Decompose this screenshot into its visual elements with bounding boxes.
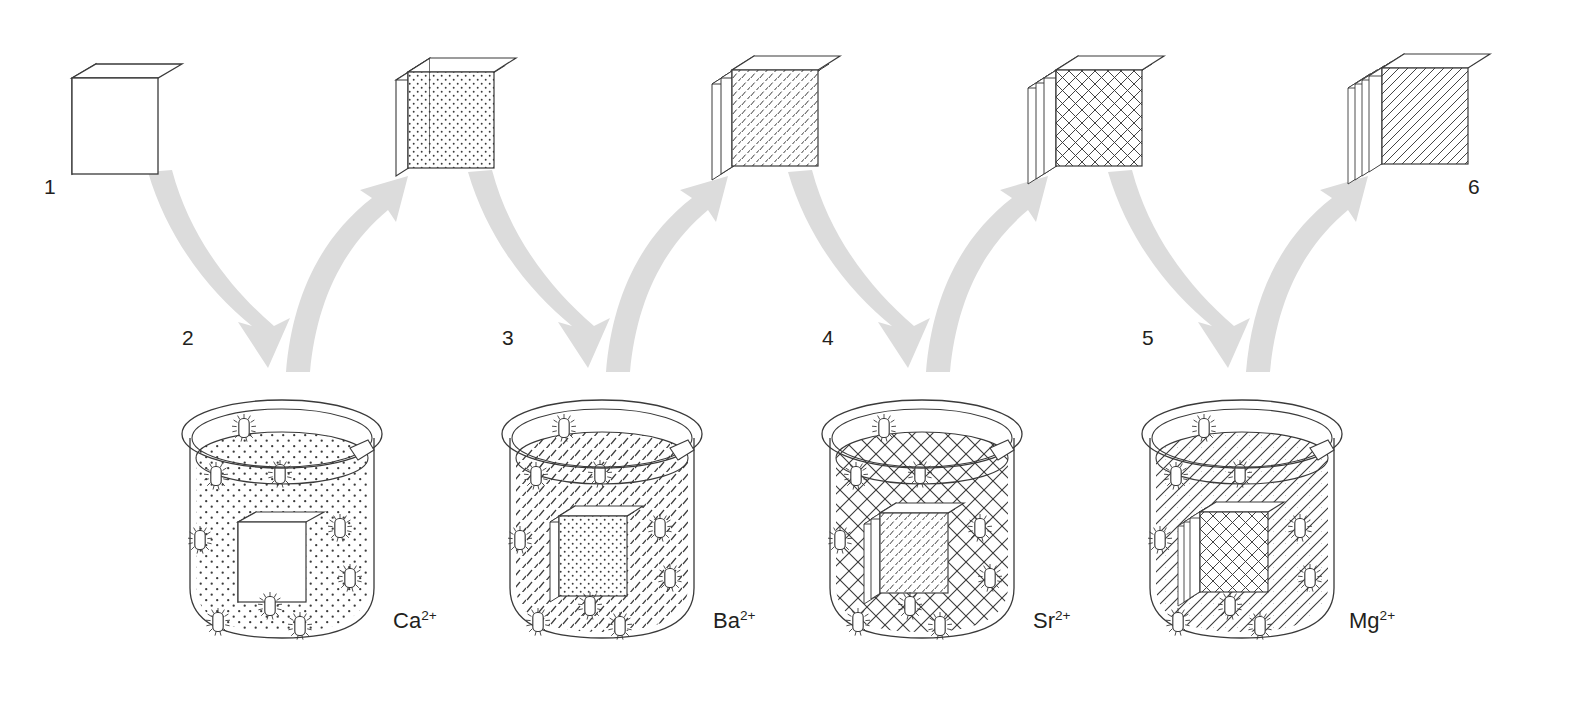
ion-particle <box>1192 414 1216 442</box>
plate-stack-1 <box>72 64 182 174</box>
ion-particle <box>872 414 896 442</box>
arrow-down-2 <box>468 170 610 368</box>
arrow-down-4 <box>1108 170 1250 368</box>
ion-label-ba: Ba2+ <box>713 608 755 634</box>
ion-particle <box>552 414 576 442</box>
ion-symbol-ca: Ca <box>393 608 421 633</box>
arrow-down-1 <box>148 170 290 368</box>
beaker-ba <box>502 400 702 646</box>
beaker-ca <box>182 400 382 646</box>
arrow-up-2 <box>606 176 728 372</box>
plate-stack-2 <box>396 58 516 176</box>
step-number-1: 1 <box>44 175 56 199</box>
beaker-mg <box>1142 400 1342 646</box>
diagram-canvas: 1 2 3 4 5 6 Ca2+ Ba2+ Sr2+ Mg2+ <box>0 0 1575 720</box>
step-number-5: 5 <box>1142 326 1154 350</box>
ion-label-ca: Ca2+ <box>393 608 437 634</box>
arrow-down-3 <box>788 170 930 368</box>
process-arrows <box>148 170 1368 372</box>
ion-symbol-ba: Ba <box>713 608 740 633</box>
step-number-2: 2 <box>182 326 194 350</box>
ion-symbol-mg: Mg <box>1349 608 1380 633</box>
ion-label-mg: Mg2+ <box>1349 608 1395 634</box>
beaker-sr <box>822 400 1022 646</box>
step-number-4: 4 <box>822 326 834 350</box>
step-number-3: 3 <box>502 326 514 350</box>
step-number-6: 6 <box>1468 175 1480 199</box>
ion-particle <box>232 414 256 442</box>
plate-stack-4 <box>1028 56 1164 184</box>
ion-charge-mg: 2+ <box>1380 608 1396 623</box>
arrow-up-4 <box>1246 176 1368 372</box>
arrow-up-1 <box>286 176 408 372</box>
plate-stack-3 <box>712 56 840 180</box>
ion-charge-ca: 2+ <box>421 608 437 623</box>
ion-charge-sr: 2+ <box>1055 608 1071 623</box>
process-flow-illustration <box>0 0 1575 720</box>
ion-symbol-sr: Sr <box>1033 608 1055 633</box>
plate-stack-5 <box>1348 54 1490 184</box>
arrow-up-3 <box>926 176 1048 372</box>
ion-label-sr: Sr2+ <box>1033 608 1071 634</box>
ion-charge-ba: 2+ <box>740 608 756 623</box>
